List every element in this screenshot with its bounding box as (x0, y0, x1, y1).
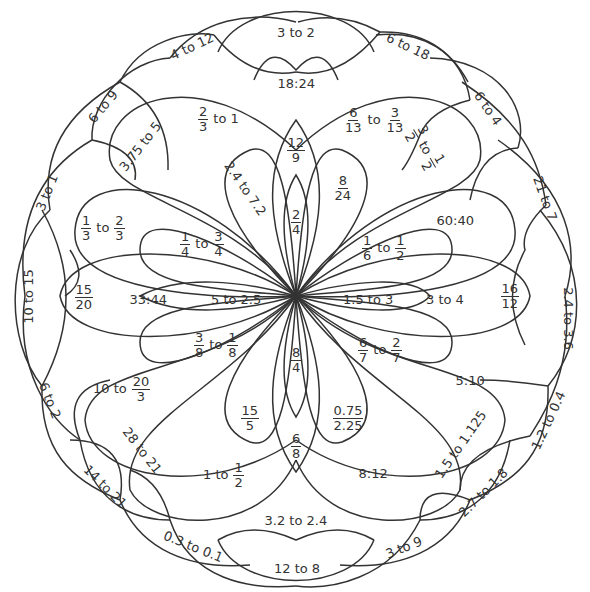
fraction-numerator: 3 (390, 106, 400, 121)
region-label-outer: 12 to 8 (274, 562, 320, 575)
fraction-numerator: 2 (291, 208, 301, 223)
ratio-separator: to (373, 342, 386, 357)
fraction-numerator: 2 (391, 336, 401, 351)
fraction-denominator: 3 (198, 120, 208, 134)
fraction-denominator: 2 (233, 476, 243, 490)
region-label-large-petals: 13to23 (80, 214, 126, 242)
fraction-denominator: 20 (75, 298, 94, 312)
region-label-center-spokes: 68 (290, 432, 302, 460)
region-label-inner-petals: 155 (240, 404, 261, 432)
ratio-separator: to 1 (213, 111, 238, 126)
fraction-numerator: 1 (81, 214, 91, 229)
region-label-large-petals: 60:40 (437, 214, 474, 227)
fraction-denominator: 2 (395, 249, 405, 263)
region-label-center-spokes: 3 to 4 (426, 293, 464, 306)
region-label-inner-petals: 67to27 (357, 336, 403, 364)
fraction-denominator: 4 (291, 223, 301, 237)
fraction-denominator: 5 (245, 419, 255, 433)
fraction-numerator: 12 (287, 136, 306, 151)
fraction-denominator: 4 (180, 245, 190, 259)
fraction: 67 (358, 336, 368, 364)
fraction-denominator: 3 (81, 229, 91, 243)
fraction: 129 (287, 136, 306, 164)
ratio-text: 3 to 4 (426, 292, 464, 307)
fraction: 203 (132, 375, 151, 403)
fraction-denominator: 3 (114, 229, 124, 243)
ratio-text: 1.5 to 3 (343, 292, 393, 307)
fraction-denominator: 4 (291, 361, 301, 375)
region-label-inner-petals: 16to12 (361, 234, 407, 262)
fraction: 23 (198, 105, 208, 133)
fraction: 12 (395, 234, 405, 262)
fraction-numerator: 2 (114, 214, 124, 229)
fraction-denominator: 2.25 (333, 419, 364, 433)
region-label-center-spokes: 33:44 (130, 293, 167, 306)
fraction: 13 (81, 214, 91, 242)
region-label-center-spokes: 1.5 to 3 (343, 293, 393, 306)
fraction: 0.752.25 (333, 404, 364, 432)
fraction: 27 (391, 336, 401, 364)
fraction-numerator: 1 (180, 230, 190, 245)
fraction: 824 (334, 174, 353, 202)
fraction-numerator: 8 (338, 174, 348, 189)
fraction-numerator: 1 (233, 461, 243, 476)
ratio-separator: 1 to (203, 467, 228, 482)
ratio-text: 8:12 (359, 466, 388, 481)
fraction: 1520 (75, 283, 94, 311)
fraction: 1612 (501, 282, 520, 310)
region-label-inner-petals: 824 (333, 174, 354, 202)
region-label-center-spokes: 129 (286, 136, 307, 164)
ratio-separator: to (195, 236, 208, 251)
fraction-denominator: 8 (227, 346, 237, 360)
fraction: 23 (114, 214, 124, 242)
ratio-separator: to (377, 240, 390, 255)
ratio-text: 60:40 (437, 213, 474, 228)
ratio-text: 33:44 (130, 292, 167, 307)
fraction-numerator: 3 (194, 331, 204, 346)
region-label-middle: 1520 (74, 283, 95, 311)
region-label-large-petals: 8:12 (359, 467, 388, 480)
region-label-center-spokes: 84 (290, 346, 302, 374)
inner-petals (140, 120, 452, 472)
fraction-numerator: 3 (213, 230, 223, 245)
region-label-inner-petals: 38to18 (193, 331, 239, 359)
region-label-center-spokes: 24 (290, 208, 302, 236)
region-label-inner-petals: 14to34 (179, 230, 225, 258)
ratio-separator: to (368, 112, 381, 127)
region-label-middle: 18:24 (278, 77, 315, 90)
ratio-text: 2.4 to 3.6 (560, 287, 575, 350)
fraction-denominator: 4 (213, 245, 223, 259)
ratio-separator: to (96, 220, 109, 235)
fraction-denominator: 7 (358, 351, 368, 365)
fraction-denominator: 13 (386, 121, 405, 135)
fraction: 313 (386, 106, 405, 134)
ratio-separator: to (416, 138, 436, 157)
fraction: 155 (241, 404, 260, 432)
fraction-numerator: 0.75 (333, 404, 364, 419)
fraction: 18 (227, 331, 237, 359)
ratio-text: 12 to 8 (274, 561, 320, 576)
region-label-large-petals: 5:10 (456, 374, 485, 387)
fraction: 24 (291, 208, 301, 236)
fraction: 84 (291, 346, 301, 374)
fraction-numerator: 1 (227, 331, 237, 346)
ratio-text: 3 to 2 (277, 25, 315, 40)
fraction: 68 (291, 432, 301, 460)
ratio-separator: to (209, 337, 222, 352)
ratio-text: 18:24 (278, 76, 315, 91)
fraction-numerator: 6 (348, 106, 358, 121)
region-label-large-petals: 613to313 (343, 106, 405, 134)
ratio-text: 5:10 (456, 373, 485, 388)
ratio-text: 10 to 15 (21, 269, 36, 323)
ratio-separator: 10 to (93, 381, 127, 396)
ratio-text: 3.2 to 2.4 (265, 513, 328, 528)
fraction: 613 (344, 106, 363, 134)
fraction-denominator: 8 (194, 346, 204, 360)
fraction: 34 (213, 230, 223, 258)
region-label-middle: 1612 (500, 282, 521, 310)
fraction-numerator: 15 (241, 404, 260, 419)
fraction: 14 (180, 230, 190, 258)
fraction-denominator: 12 (501, 297, 520, 311)
fraction-numerator: 8 (291, 346, 301, 361)
ratio-text: 5 to 2.5 (211, 292, 261, 307)
